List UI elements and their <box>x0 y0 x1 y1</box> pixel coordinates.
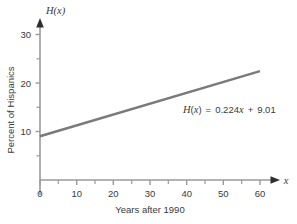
y-axis-symbol: H(x) <box>45 5 66 17</box>
equation-plus: + <box>248 104 254 115</box>
x-tick-label-50: 50 <box>218 188 229 199</box>
y-tick-label-20: 20 <box>20 78 31 89</box>
y-tick-label-30: 30 <box>20 29 31 40</box>
x-tick-label-40: 40 <box>181 188 192 199</box>
equation-equals: = <box>206 104 212 115</box>
x-tick-label-20: 20 <box>108 188 119 199</box>
x-tick-label-0: 0 <box>37 188 42 199</box>
linear-function-plot: 10 20 30 0 10 20 30 40 50 60 Years after… <box>0 0 297 224</box>
equation-constant: 9.01 <box>257 104 276 115</box>
equation-coefficient: 0.224 <box>215 104 239 115</box>
equation-coef-var: x <box>238 104 244 115</box>
x-tick-label-30: 30 <box>145 188 156 199</box>
equation-annotation: H(x)=0.224x+9.01 <box>182 104 276 115</box>
chart-container: 10 20 30 0 10 20 30 40 50 60 Years after… <box>0 0 297 224</box>
y-axis-title: Percent of Hispanics <box>5 66 16 153</box>
equation-fn-close: ) <box>198 104 201 115</box>
x-tick-label-60: 60 <box>255 188 266 199</box>
y-tick-label-10: 10 <box>20 126 31 137</box>
x-tick-label-10: 10 <box>71 188 82 199</box>
x-axis-symbol: x <box>283 175 289 186</box>
x-axis-title: Years after 1990 <box>115 204 184 215</box>
